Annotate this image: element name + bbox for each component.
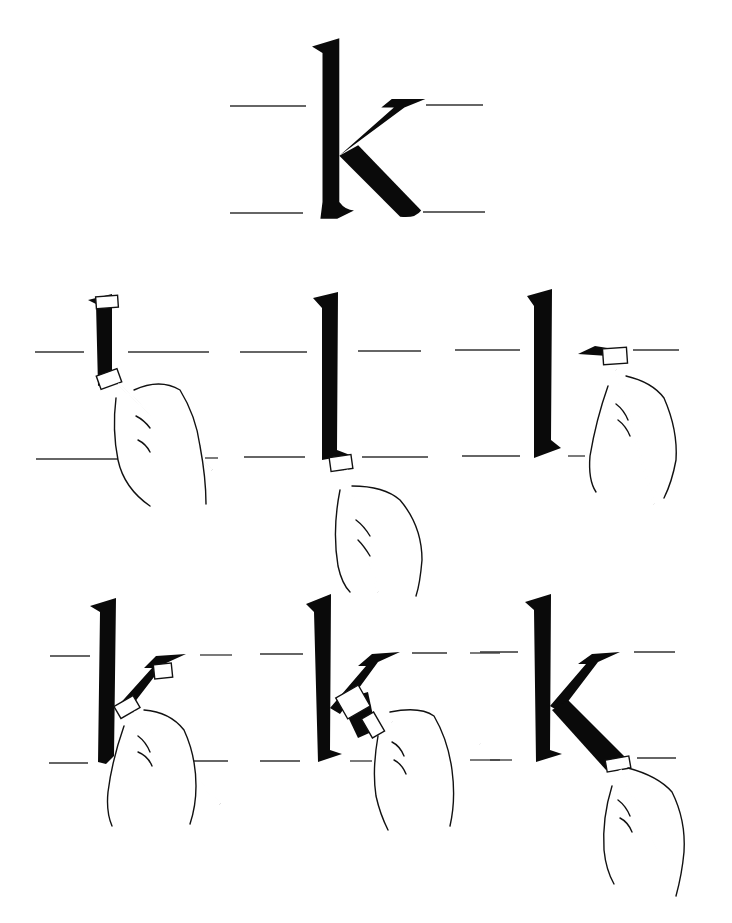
calligraphy-diagram (0, 0, 732, 923)
letter-k-glyph (312, 38, 425, 219)
step-5-leg-start (260, 594, 500, 830)
step-4-arm-end (49, 598, 232, 826)
finished-letter-k (230, 38, 485, 219)
step-2-ascender-end (240, 292, 428, 596)
step-6-leg-end (480, 594, 684, 896)
step-3-arm-start (455, 289, 679, 504)
step-1-ascender-start (35, 294, 218, 506)
